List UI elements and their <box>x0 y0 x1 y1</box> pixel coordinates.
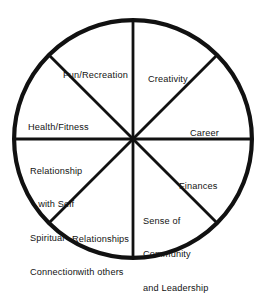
sector-label-relationships-with-others: Relationships with others <box>72 211 129 297</box>
sector-label-line: Community <box>143 249 208 260</box>
sector-label-line: Sense of <box>143 216 208 227</box>
sector-label-line: Creativity <box>148 74 188 85</box>
sector-label-line: with Self <box>30 199 82 210</box>
sector-label-line: Fun/Recreation <box>63 70 128 81</box>
sector-label-creativity: Creativity <box>148 51 188 107</box>
sector-label-fun-recreation: Fun/Recreation <box>63 47 128 103</box>
sector-label-line: with others <box>72 267 129 278</box>
sector-label-line: Relationship <box>30 166 82 177</box>
sector-label-line: Health/Fitness <box>28 122 89 133</box>
sector-label-line: Relationships <box>72 234 129 245</box>
sector-label-line: and Leadership <box>143 283 208 294</box>
sector-label-career: Career <box>190 105 219 161</box>
sector-label-line: Finances <box>179 181 217 192</box>
sector-label-sense-of-community-and-leadership: Sense of Community and Leadership <box>143 193 208 297</box>
sector-label-line: Career <box>190 128 219 139</box>
